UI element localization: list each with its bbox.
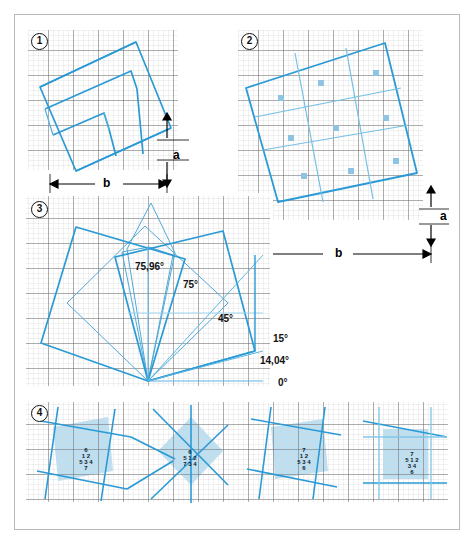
panel-2-label-a: a (440, 209, 447, 223)
panel-4-badge: 4 (31, 405, 48, 422)
panel-4-annotation-4: 7 5 1 2 3 4 6 (395, 451, 429, 475)
panel-2-label-b: b (335, 246, 342, 260)
panel-4-annotation-3: 7 1 2 5 3 4 6 (287, 447, 321, 471)
panel-1-label-a: a (173, 148, 180, 162)
panel-1-badge: 1 (31, 33, 48, 50)
panel-3-angle-45: 45° (218, 313, 233, 324)
panel-2-badge: 2 (241, 33, 258, 50)
panel-1-label-b: b (103, 176, 110, 190)
panel-4-annotation-1: 6 1 2 5 3 4 7 (69, 447, 103, 471)
figure-root: 1 a b (0, 0, 475, 545)
figure-frame: 1 a b (14, 14, 460, 530)
panel-3-angle-1404: 14,04° (260, 355, 289, 366)
panel-3-angle-75: 75° (183, 279, 198, 290)
panel-3-badge: 3 (31, 201, 48, 218)
panel-4-annotation-2: 6 5 1 2 7 3 4 (173, 449, 207, 467)
panel-3-angle-15: 15° (273, 333, 288, 344)
panel-3-graphic (23, 193, 273, 389)
panel-3-angle-7596: 75,96° (135, 261, 164, 272)
panel-2-dimension-a (415, 183, 455, 249)
panel-3: 3 (23, 193, 273, 389)
panel-3-angle-0: 0° (278, 377, 288, 388)
